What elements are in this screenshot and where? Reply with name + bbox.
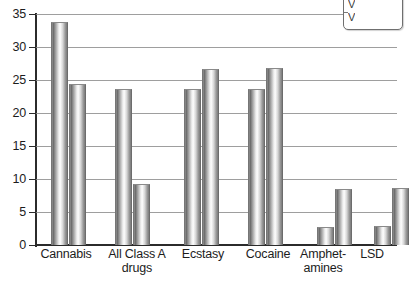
y-axis-label-30: 30 bbox=[2, 41, 26, 54]
gridline-30 bbox=[36, 47, 397, 48]
bar-ecstasy-2 bbox=[202, 69, 219, 245]
y-axis-label-35: 35 bbox=[2, 8, 26, 21]
bar-lsd-2 bbox=[392, 188, 409, 245]
y-tick-5 bbox=[29, 212, 36, 213]
y-axis-label-10: 10 bbox=[2, 173, 26, 186]
bar-amphetamines-1 bbox=[317, 227, 334, 245]
bar-amphetamines-2 bbox=[335, 189, 352, 246]
bar-cocaine-1 bbox=[248, 89, 265, 245]
bar-cannabis-2 bbox=[69, 84, 86, 245]
bar-all-class-a-drugs-1 bbox=[115, 89, 132, 245]
bar-ecstasy-1 bbox=[184, 89, 201, 245]
y-tick-10 bbox=[29, 179, 36, 180]
bar-all-class-a-drugs-2 bbox=[133, 184, 150, 245]
plot-area bbox=[36, 14, 397, 245]
y-axis-label-15: 15 bbox=[2, 140, 26, 153]
bar-cannabis-1 bbox=[51, 22, 68, 245]
y-axis-label-5: 5 bbox=[2, 206, 26, 219]
y-tick-30 bbox=[29, 47, 36, 48]
x-axis-category-all-class-a: All Class A drugs bbox=[96, 248, 178, 275]
y-axis-label-25: 25 bbox=[2, 74, 26, 87]
x-axis-category-ecstasy: Ecstasy bbox=[168, 248, 238, 262]
x-axis-category-amphetamines: Amphet- amines bbox=[288, 248, 358, 275]
x-axis-category-cannabis: Cannabis bbox=[30, 248, 102, 262]
y-tick-35 bbox=[29, 14, 36, 15]
x-axis-category-lsd: LSD bbox=[350, 248, 394, 262]
y-tick-20 bbox=[29, 113, 36, 114]
y-axis-label-0: 0 bbox=[2, 239, 26, 252]
bar-cocaine-2 bbox=[266, 68, 283, 245]
y-tick-25 bbox=[29, 80, 36, 81]
bar-lsd-1 bbox=[374, 226, 391, 245]
y-tick-15 bbox=[29, 146, 36, 147]
legend-box[interactable]: V V bbox=[343, 0, 403, 30]
legend-text: V V bbox=[348, 0, 355, 24]
y-axis-label-20: 20 bbox=[2, 107, 26, 120]
y-tick-0 bbox=[29, 245, 36, 246]
